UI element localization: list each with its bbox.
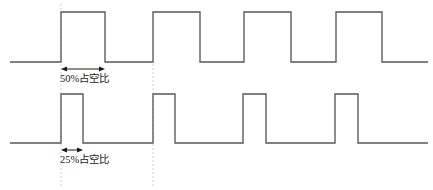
arrow-head-left xyxy=(61,147,67,152)
arrow-head-left xyxy=(61,66,67,71)
duty-cycle-label-bottom: 25%占空比 xyxy=(60,154,109,166)
duty-cycle-label-top: 50%占空比 xyxy=(60,73,109,85)
arrow-head-right xyxy=(99,66,105,71)
waveform-25-percent xyxy=(10,94,428,143)
dimension-arrow-25-percent xyxy=(61,147,83,152)
dimension-arrow-50-percent xyxy=(61,66,105,71)
waveform-figure: 50%占空比 25%占空比 xyxy=(0,0,433,190)
arrow-head-right xyxy=(77,147,83,152)
waveform-50-percent xyxy=(10,12,428,62)
